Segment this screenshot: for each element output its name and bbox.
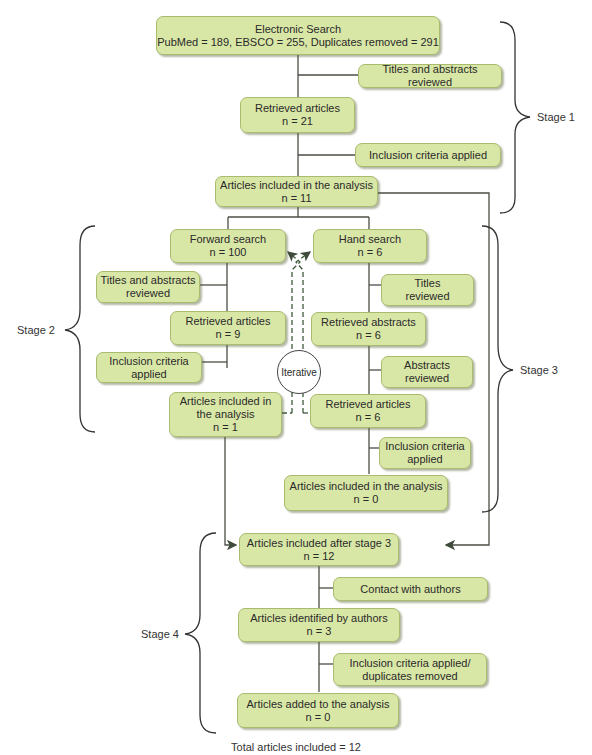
iterative-label: Iterative <box>281 367 317 378</box>
box-title: Retrieved articles <box>255 102 340 115</box>
box-count: n = 6 <box>358 246 383 259</box>
box-title: duplicates removed <box>362 670 457 683</box>
inclusion-criteria-stage1-box: Inclusion criteria applied <box>355 143 501 167</box>
identified-by-authors-box: Articles identified by authors n = 3 <box>238 608 400 642</box>
box-title: Contact with authors <box>360 583 460 596</box>
stage-2-label: Stage 2 <box>17 324 55 336</box>
titles-abstracts-reviewed-box: Titles and abstracts reviewed <box>358 64 502 88</box>
box-title: applied <box>407 453 442 466</box>
box-count: n = 0 <box>306 711 331 724</box>
box-count: n = 6 <box>356 411 381 424</box>
box-title: Titles and abstracts reviewed <box>359 63 501 89</box>
box-title: Electronic Search <box>255 23 341 36</box>
box-title: Titles and abstracts <box>101 274 196 287</box>
retrieved-articles-9-box: Retrieved articles n = 9 <box>170 311 286 345</box>
box-count: n = 21 <box>282 115 313 128</box>
electronic-search-box: Electronic Search PubMed = 189, EBSCO = … <box>156 16 440 55</box>
box-title: reviewed <box>126 287 170 300</box>
box-title: Inclusion criteria <box>109 355 188 368</box>
box-title: Retrieved articles <box>186 315 271 328</box>
box-title: Articles included in the analysis <box>220 179 373 192</box>
box-title: Articles included after stage 3 <box>247 537 391 550</box>
inclusion-criteria-stage3-box: Inclusion criteria applied <box>379 437 471 469</box>
box-title: Articles included in the analysis <box>290 480 443 493</box>
box-title: Inclusion criteria applied <box>369 149 487 162</box>
iterative-cycle-icon: Iterative <box>277 350 321 394</box>
box-count: n = 3 <box>307 625 332 638</box>
inclusion-duplicates-box: Inclusion criteria applied/ duplicates r… <box>333 653 487 686</box>
box-count: n = 11 <box>281 192 311 205</box>
box-count: n = 6 <box>356 329 381 342</box>
box-title: Abstracts <box>404 359 450 372</box>
added-0-box: Articles added to the analysis n = 0 <box>237 693 399 728</box>
stage-4-label: Stage 4 <box>141 628 179 640</box>
hand-search-box: Hand search n = 6 <box>313 229 427 263</box>
included-11-box: Articles included in the analysis n = 11 <box>215 176 378 207</box>
forward-search-box: Forward search n = 100 <box>170 229 286 263</box>
retrieved-articles-21-box: Retrieved articles n = 21 <box>240 97 355 133</box>
box-count: n = 100 <box>209 246 246 259</box>
box-detail: PubMed = 189, EBSCO = 255, Duplicates re… <box>157 36 439 49</box>
box-count: n = 9 <box>216 328 241 341</box>
box-count: n = 1 <box>213 421 238 434</box>
inclusion-criteria-stage2-box: Inclusion criteria applied <box>96 352 202 383</box>
box-title: Articles identified by authors <box>250 612 388 625</box>
box-title: reviewed <box>405 372 449 385</box>
box-count: n = 12 <box>304 550 335 563</box>
titles-abstracts-reviewed-stage2-box: Titles and abstracts reviewed <box>96 271 200 303</box>
retrieved-articles-6-box: Retrieved articles n = 6 <box>310 394 426 428</box>
box-title: Inclusion criteria applied/ <box>349 657 470 670</box>
box-title: Forward search <box>190 233 266 246</box>
box-title: applied <box>131 368 166 381</box>
contact-authors-box: Contact with authors <box>333 577 488 601</box>
box-count: n = 0 <box>354 493 379 506</box>
box-title: Titles <box>415 277 441 290</box>
box-title: Articles added to the analysis <box>246 698 389 711</box>
box-title: Retrieved articles <box>326 398 411 411</box>
included-0-stage3-box: Articles included in the analysis n = 0 <box>284 475 448 511</box>
box-title: the analysis <box>196 408 254 421</box>
stage-1-label: Stage 1 <box>537 111 575 123</box>
box-title: Retrieved abstracts <box>321 316 416 329</box>
titles-reviewed-box: Titles reviewed <box>381 274 474 306</box>
total-articles-label: Total articles included = 12 <box>0 741 592 753</box>
box-title: Inclusion criteria <box>385 440 464 453</box>
stage-3-label: Stage 3 <box>520 364 558 376</box>
included-1-box: Articles included in the analysis n = 1 <box>169 392 282 437</box>
after-stage3-box: Articles included after stage 3 n = 12 <box>239 533 399 566</box>
retrieved-abstracts-box: Retrieved abstracts n = 6 <box>311 312 426 346</box>
box-title: Articles included in <box>180 395 272 408</box>
box-title: reviewed <box>405 290 449 303</box>
box-title: Hand search <box>339 233 401 246</box>
abstracts-reviewed-box: Abstracts reviewed <box>381 356 473 388</box>
